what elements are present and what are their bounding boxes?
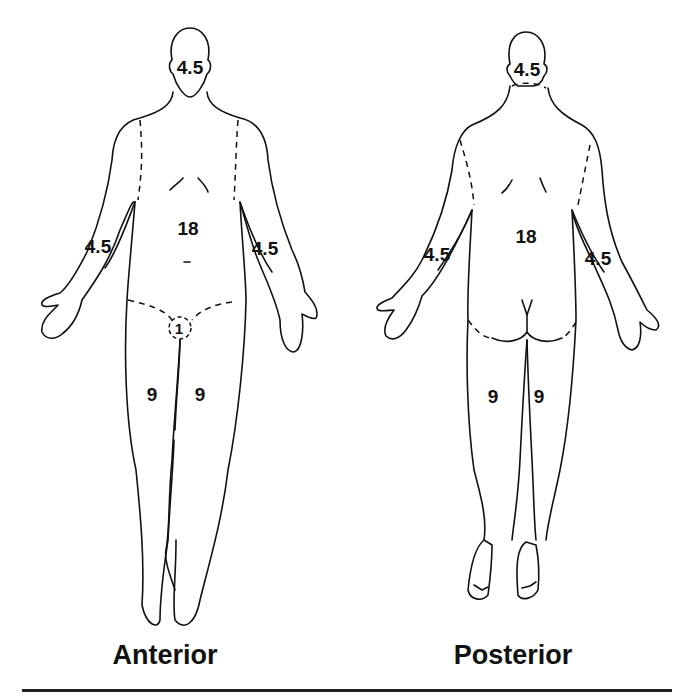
posterior-left-arm-value: 4.5: [424, 244, 450, 266]
anterior-left-leg-value: 9: [195, 384, 206, 406]
posterior-head-value: 4.5: [514, 59, 540, 81]
anterior-left-arm-value: 4.5: [252, 238, 278, 260]
anterior-trunk-value: 18: [177, 218, 198, 240]
anterior-right-leg-value: 9: [147, 384, 158, 406]
bottom-divider: [22, 689, 672, 692]
anterior-genitalia-value: 1: [175, 320, 183, 337]
posterior-figure: [377, 32, 659, 599]
posterior-trunk-value: 18: [515, 226, 536, 248]
anterior-caption: Anterior: [112, 640, 217, 671]
anterior-head-value: 4.5: [177, 57, 203, 79]
posterior-right-arm-value: 4.5: [585, 248, 611, 270]
anterior-right-arm-value: 4.5: [85, 236, 111, 258]
posterior-right-leg-value: 9: [534, 386, 545, 408]
posterior-caption: Posterior: [454, 640, 573, 671]
posterior-left-leg-value: 9: [488, 386, 499, 408]
body-outline-drawing: [0, 0, 684, 700]
